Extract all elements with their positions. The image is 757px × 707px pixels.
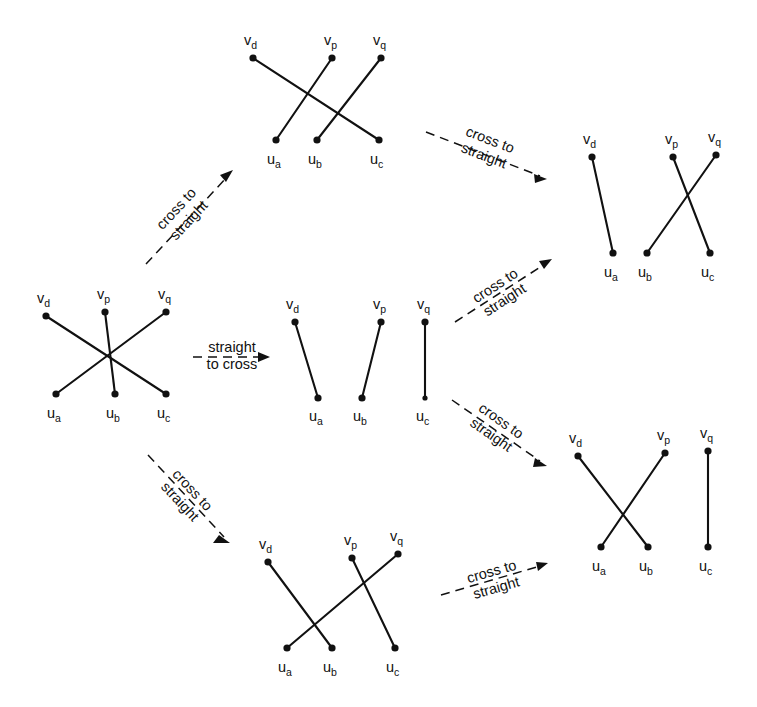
- edge-vq-ub: [647, 155, 716, 253]
- arrow-head: [534, 174, 547, 183]
- arrow-cross-to-straight-center-to-topright: cross to straight: [455, 259, 552, 322]
- vertex-vq: [712, 151, 719, 158]
- vertex-ub: [358, 394, 365, 401]
- vertex-vq: [421, 318, 428, 325]
- label-uc: uc: [386, 659, 399, 678]
- label-ub: ub: [639, 558, 653, 577]
- label-vd: vd: [259, 536, 272, 555]
- arrow-cross-to-straight-left-to-top: cross to straight: [146, 170, 233, 264]
- label-vp: vp: [344, 532, 357, 551]
- arrow-cross-to-straight-top-to-topright: cross to straight: [426, 123, 547, 183]
- label-uc: uc: [157, 405, 170, 424]
- arrow-head: [539, 259, 552, 269]
- arrow-label-line1: straight: [208, 339, 256, 355]
- edge-vq-ua: [56, 312, 166, 394]
- arrow-head: [220, 170, 233, 182]
- vertex-vp: [328, 54, 335, 61]
- label-uc: uc: [370, 151, 383, 170]
- vertex-ua: [52, 390, 59, 397]
- label-vq: vq: [373, 32, 386, 51]
- label-vq: vq: [158, 286, 171, 305]
- label-vd: vd: [569, 430, 582, 449]
- label-vq: vq: [390, 528, 403, 547]
- label-ua: ua: [604, 264, 618, 283]
- label-uc: uc: [416, 408, 429, 427]
- vertex-uc: [162, 390, 169, 397]
- vertex-vq: [377, 54, 384, 61]
- vertex-ub: [328, 644, 335, 651]
- edge-vd-ub: [268, 562, 332, 648]
- graph-center-middle: vd vp vq ua ub uc: [286, 296, 430, 427]
- edge-vq-ua: [287, 554, 398, 648]
- label-vp: vp: [665, 131, 678, 150]
- edge-vp-ua: [276, 58, 332, 140]
- vertex-uc: [391, 644, 398, 651]
- label-vq: vq: [417, 296, 430, 315]
- label-ub: ub: [638, 264, 652, 283]
- label-ub: ub: [323, 659, 337, 678]
- arrow-head: [213, 535, 230, 543]
- vertex-ub: [644, 543, 651, 550]
- vertex-vd: [588, 153, 595, 160]
- vertex-ub: [111, 390, 118, 397]
- label-vd: vd: [37, 290, 50, 309]
- vertex-vd: [42, 312, 49, 319]
- vertex-ub: [313, 136, 320, 143]
- arrow-cross-to-straight-left-to-bottom: cross to straight: [148, 455, 230, 543]
- edge-vq-ub: [317, 58, 381, 140]
- vertex-uc: [422, 395, 427, 400]
- label-vq: vq: [700, 425, 713, 444]
- vertex-vd: [574, 452, 581, 459]
- label-vd: vd: [286, 296, 299, 315]
- vertex-uc: [375, 136, 382, 143]
- vertex-ua: [314, 394, 321, 401]
- label-ua: ua: [47, 405, 61, 424]
- vertex-vp: [101, 308, 108, 315]
- graph-top-right: vd vp vq ua ub uc: [583, 129, 721, 283]
- vertex-vd: [264, 558, 271, 565]
- label-vp: vp: [324, 32, 337, 51]
- label-vp: vp: [97, 286, 110, 305]
- label-ub: ub: [308, 151, 322, 170]
- label-vq: vq: [708, 129, 721, 148]
- arrow-head: [533, 458, 547, 467]
- arrow-cross-to-straight-bottom-to-bottomright: cross to straight: [441, 557, 548, 602]
- label-uc: uc: [701, 264, 714, 283]
- label-vd: vd: [244, 32, 257, 51]
- edge-vp-ub: [362, 322, 381, 398]
- vertex-vq: [394, 550, 401, 557]
- vertex-vp: [377, 318, 384, 325]
- label-ua: ua: [592, 558, 606, 577]
- arrow-head: [258, 352, 270, 362]
- label-ub: ub: [106, 405, 120, 424]
- vertex-ua: [283, 644, 290, 651]
- edge-vd-ub: [578, 456, 648, 547]
- arrow-head: [536, 562, 548, 571]
- vertex-uc: [704, 543, 711, 550]
- vertex-vp: [348, 554, 355, 561]
- vertex-ua: [597, 543, 604, 550]
- vertex-vd: [291, 318, 298, 325]
- arrow-label-line2: to cross: [207, 356, 258, 372]
- edge-vd-uc: [253, 58, 379, 140]
- vertex-vp: [661, 449, 668, 456]
- vertex-vd: [249, 54, 256, 61]
- vertex-vq: [162, 308, 169, 315]
- label-ua: ua: [278, 659, 292, 678]
- label-ub: ub: [353, 408, 367, 427]
- graph-bottom-right: vd vp vq ua ub uc: [569, 425, 713, 577]
- graph-bottom-middle: vd vp vq ua ub uc: [259, 528, 403, 678]
- graph-top-middle: vd vp vq ua ub uc: [244, 32, 386, 170]
- vertex-ub: [643, 249, 650, 256]
- edge-vp-uc: [352, 558, 395, 648]
- label-ua: ua: [309, 408, 323, 427]
- vertex-ua: [609, 249, 616, 256]
- label-ua: ua: [267, 151, 281, 170]
- graph-left-center: vd vp vq ua ub uc: [37, 286, 171, 424]
- vertex-ua: [272, 136, 279, 143]
- arrow-cross-to-straight-center-to-bottomright: cross to straight: [452, 400, 547, 467]
- label-vp: vp: [657, 427, 670, 446]
- vertex-vp: [669, 153, 676, 160]
- label-vp: vp: [373, 296, 386, 315]
- transformation-diagram: vd vp vq ua ub uc vd vp vq ua ub: [0, 0, 757, 707]
